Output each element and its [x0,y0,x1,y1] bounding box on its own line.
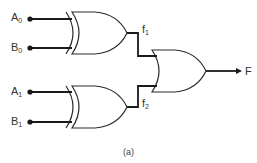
label-f2: f2 [142,98,149,112]
or-gate [152,50,206,92]
input-dot-a1 [27,89,32,94]
input-dot-a0 [27,16,32,21]
figure-caption: (a) [0,147,257,157]
xor-gate-1 [66,12,127,54]
label-b1: B1 [11,116,22,130]
xor-gate-2 [66,86,127,128]
label-f1: f1 [142,24,149,38]
arrow-head-icon [236,68,242,74]
input-dot-b1 [27,119,32,124]
logic-circuit [0,0,257,163]
input-dot-b0 [27,45,32,50]
label-output-f: F [245,66,252,77]
label-b0: B0 [11,42,22,56]
label-a0: A0 [11,12,22,26]
label-a1: A1 [11,86,22,100]
